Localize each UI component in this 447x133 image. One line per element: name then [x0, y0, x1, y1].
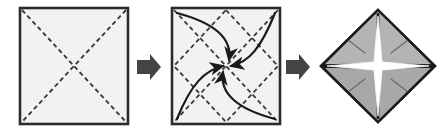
- center-star-gap: [327, 16, 429, 116]
- step-panel-3: Result: a smaller diamond with a four-po…: [298, 0, 447, 133]
- step-panel-1: Square sheet with both diagonal creases …: [0, 0, 149, 133]
- origami-fold-diagram: Origami fold sequence: blintz base Squar…: [0, 0, 447, 133]
- step-panel-2: Fold all four corners inward to the cent…: [149, 0, 298, 133]
